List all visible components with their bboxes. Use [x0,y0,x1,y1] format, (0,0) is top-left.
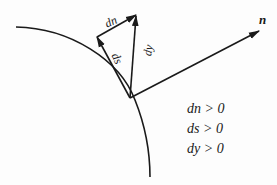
dn-label: dn [103,13,120,31]
condition-ds: ds > 0 [187,122,223,136]
n-vector [130,31,259,98]
condition-dy: dy > 0 [187,142,224,156]
n-label: n [259,12,266,27]
boundary-curve [16,27,150,177]
ds-vector [97,37,130,98]
vector-diagram: dn ds dy n [0,0,277,185]
dy-vector [130,16,136,98]
diagram-canvas: dn ds dy n dn > 0 ds > 0 dy > 0 [0,0,277,185]
condition-dn: dn > 0 [187,102,224,116]
dy-label: dy [140,43,156,57]
